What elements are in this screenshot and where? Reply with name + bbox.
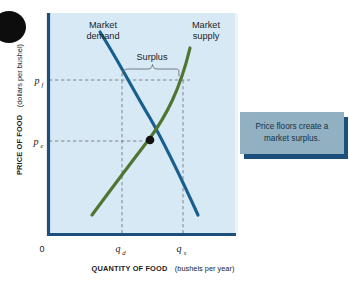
plot-area-edge-right: [235, 13, 238, 235]
x-axis-units: (bushels per year): [175, 264, 235, 273]
surplus-label: Surplus: [136, 52, 168, 62]
y-axis-units: (dollars per bushel): [15, 44, 24, 107]
equilibrium-point-marker: [146, 136, 155, 145]
economics-figure: Surplus Market demand Market supply p f …: [0, 0, 349, 283]
market-demand-label-line2: demand: [86, 31, 119, 41]
callout-box: Price floors create a market surplus.: [240, 112, 348, 159]
quantity-demanded-symbol: q: [116, 243, 121, 254]
market-supply-label-line2: supply: [193, 31, 220, 41]
equilibrium-price-symbol: p: [33, 136, 39, 147]
market-supply-label-line1: Market: [192, 20, 221, 30]
equilibrium-price-subscript: e: [41, 142, 44, 149]
y-axis-title: PRICE OF FOOD: [15, 114, 24, 175]
x-axis-title: QUANTITY OF FOOD: [92, 264, 168, 273]
quantity-supplied-subscript: s: [184, 249, 187, 256]
origin-label: 0: [39, 244, 44, 254]
quantity-supplied-symbol: q: [177, 243, 182, 254]
market-demand-label-line1: Market: [89, 20, 118, 30]
callout-text-line1: Price floors create a: [256, 122, 329, 131]
callout-text-line2: market surplus.: [264, 134, 320, 143]
price-floor-surplus-chart: Surplus Market demand Market supply p f …: [0, 0, 349, 283]
plot-area-background: [47, 13, 235, 235]
price-floor-symbol: p: [34, 75, 40, 86]
callout-background: [240, 112, 344, 154]
